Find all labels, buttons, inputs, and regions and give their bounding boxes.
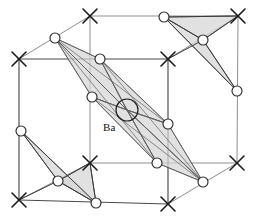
atom-tr-center (198, 35, 208, 45)
atom-bl-apex (16, 126, 26, 136)
bottom-left-tetrahedron-edge-5 (19, 181, 58, 200)
atom-tr-bottom (232, 86, 242, 96)
ba-site-group (116, 99, 138, 121)
ba-label: Ba (103, 121, 116, 133)
atom-top-left-apex (50, 33, 60, 43)
bottom-left-tetrahedron-edge-0 (21, 131, 58, 181)
ba-atom-circle (116, 99, 138, 121)
atom-left-mid (87, 92, 97, 102)
crystal-structure-canvas: Ba (0, 0, 254, 220)
atom-tr-apex (159, 12, 169, 22)
atom-lower-mid (152, 158, 162, 168)
atom-right-mid (163, 119, 173, 129)
atom-bottom-right-apex (198, 177, 208, 187)
atom-bl-bottom (91, 198, 101, 208)
top-right-tetrahedron-edge-1 (203, 40, 237, 91)
atom-bl-center (53, 176, 63, 186)
labels-group: Ba (103, 121, 116, 133)
atom-upper-mid (95, 54, 105, 64)
crystal-structure-figure: Ba (0, 0, 254, 220)
